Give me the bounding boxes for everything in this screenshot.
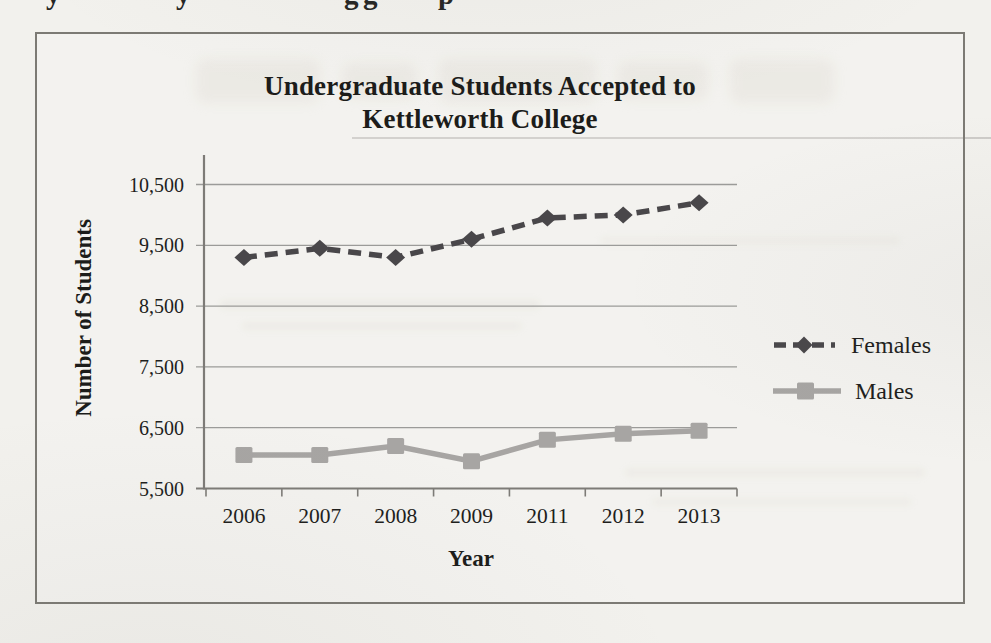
females-data-point-2007 <box>310 240 329 257</box>
x-tick-label: 2009 <box>450 504 493 528</box>
legend-item-females: Females <box>771 332 931 358</box>
x-tick-label: 2006 <box>222 504 265 528</box>
x-tick-label: 2013 <box>678 504 721 528</box>
y-tick-label: 10,500 <box>129 174 184 196</box>
y-tick-label: 8,500 <box>139 295 184 317</box>
males-data-point-2007 <box>311 447 328 463</box>
males-data-point-2013 <box>691 423 708 439</box>
males-data-point-2006 <box>235 447 252 463</box>
females-data-point-2008 <box>386 249 405 266</box>
scanned-page: yyggp Undergraduate Students Accepted to… <box>0 0 991 643</box>
females-data-point-2013 <box>690 194 709 211</box>
males-data-point-2011 <box>539 432 556 448</box>
y-tick-label: 9,500 <box>139 234 184 256</box>
y-tick-label: 5,500 <box>139 478 184 500</box>
x-tick-label: 2007 <box>298 504 341 528</box>
line-chart-plot: 5,5006,5007,5008,5009,50010,500200620072… <box>0 0 991 643</box>
legend-label-males: Males <box>855 378 914 405</box>
females-line-marker-icon <box>771 335 841 355</box>
males-line-marker-icon <box>771 380 845 402</box>
x-tick-label: 2008 <box>374 504 417 528</box>
x-tick-label: 2012 <box>602 504 645 528</box>
males-data-point-2009 <box>463 453 480 469</box>
males-data-point-2008 <box>387 438 404 454</box>
y-tick-label: 6,500 <box>139 417 184 439</box>
legend-label-females: Females <box>851 332 931 359</box>
legend-item-males: Males <box>771 378 914 404</box>
x-tick-label: 2011 <box>526 504 568 528</box>
males-data-point-2012 <box>615 426 632 442</box>
females-data-point-2006 <box>234 249 253 266</box>
females-data-point-2011 <box>538 209 557 226</box>
females-data-point-2012 <box>614 206 633 223</box>
y-tick-label: 7,500 <box>139 356 184 378</box>
